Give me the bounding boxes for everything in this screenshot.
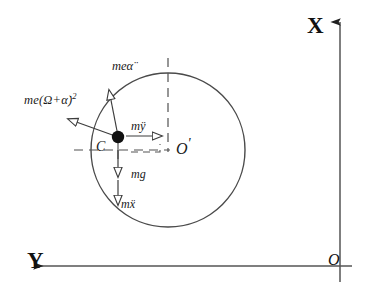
mg-force-label: mg [131, 168, 146, 180]
geometric-center-label: O' [176, 136, 191, 157]
mass-center-label: C [96, 140, 105, 154]
x-axis-label: X [307, 14, 324, 37]
axes-group [34, 22, 352, 282]
y-axis-label: Y [27, 249, 44, 272]
rotor-free-body-diagram: me(Ω+α̇)2 meα̈ mÿ mg mẍ C O' X Y O [0, 0, 369, 290]
mass-center-dot [112, 131, 124, 143]
my-ddot-force-label: mÿ [131, 120, 146, 133]
oprime-elbow-guide [131, 144, 160, 152]
prime-mark: ' [188, 135, 191, 151]
centrifugal-exponent: 2 [72, 91, 76, 101]
centrifugal-force-label: me(Ω+α̇)2 [24, 92, 77, 107]
tangential-force-arrow [109, 90, 118, 136]
force-vectors-group [68, 90, 162, 205]
construction-guides [74, 58, 170, 159]
tangential-force-label: meα̈ [112, 60, 133, 73]
mx-ddot-force-label: mẍ [121, 198, 135, 210]
origin-label: O [328, 252, 340, 268]
